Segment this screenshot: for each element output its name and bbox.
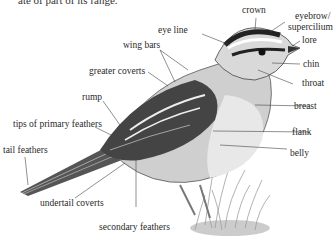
label-rump: rump xyxy=(82,92,102,102)
label-eyebrow: eyebrow/ xyxy=(295,11,330,21)
bird-anatomy-diagram: ate of part of its range. xyxy=(0,0,335,239)
ground-shadow xyxy=(190,220,270,236)
label-chin: chin xyxy=(303,59,319,69)
eye xyxy=(259,49,266,56)
label-secondary-feathers: secondary feathers xyxy=(99,222,170,232)
label-breast: breast xyxy=(294,101,317,111)
label-greater-coverts: greater coverts xyxy=(89,66,145,76)
label-lore: lore xyxy=(302,35,317,45)
legs xyxy=(180,185,210,218)
label-supercilium: supercilium xyxy=(288,22,333,32)
label-belly: belly xyxy=(290,148,309,158)
label-undertail-coverts: undertail coverts xyxy=(40,198,104,208)
label-wing-bars: wing bars xyxy=(123,40,160,50)
label-tail-feathers: tail feathers xyxy=(3,145,48,155)
label-flank: flank xyxy=(292,127,312,137)
label-throat: throat xyxy=(302,78,324,88)
label-tips-of-primary-feathers: tips of primary feathers xyxy=(13,119,102,129)
head xyxy=(215,28,300,80)
label-eye-line: eye line xyxy=(158,25,188,35)
label-crown: crown xyxy=(242,5,266,15)
